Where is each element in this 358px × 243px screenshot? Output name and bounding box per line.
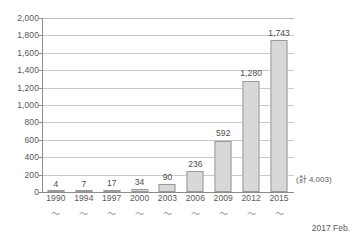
bar-value-label: 34 <box>135 178 145 187</box>
y-axis-tick-label: 600 <box>0 136 39 145</box>
x-axis-tick-label: 2012 <box>237 194 265 203</box>
bar[interactable] <box>271 40 288 192</box>
bar[interactable] <box>131 189 148 192</box>
bar-chart-figure: 02004006008001,0001,2001,4001,6001,8002,… <box>0 0 358 243</box>
source-date-note: 2017 Feb. <box>312 224 350 233</box>
x-axis-range-tilde: 〜 <box>154 210 182 219</box>
x-axis-category: 2000〜 <box>126 194 154 219</box>
x-axis-category: 1990〜 <box>42 194 70 219</box>
x-axis-range-tilde: 〜 <box>237 210 265 219</box>
bar[interactable] <box>75 190 92 192</box>
y-axis-tick-label: 1,000 <box>0 101 39 110</box>
bar[interactable] <box>47 190 64 192</box>
y-axis-tick-label: 400 <box>0 153 39 162</box>
bar-value-label: 1,743 <box>268 29 290 38</box>
y-axis-tick-label: 0 <box>0 188 39 197</box>
bar-slot: 1,743 <box>265 18 293 192</box>
x-axis-category: 2009〜 <box>209 194 237 219</box>
x-axis-category: 2006〜 <box>181 194 209 219</box>
x-axis-tick-label: 2006 <box>181 194 209 203</box>
bar[interactable] <box>215 141 232 193</box>
bar-slot: 1,280 <box>237 18 265 192</box>
bar-value-label: 90 <box>163 173 173 182</box>
x-axis-range-tilde: 〜 <box>70 210 98 219</box>
total-annotation: (計 4,003) <box>296 176 332 184</box>
bar-slot: 34 <box>126 18 154 192</box>
bar-value-label: 7 <box>81 180 86 189</box>
x-axis-tick-label: 1990 <box>42 194 70 203</box>
bar-slot: 592 <box>209 18 237 192</box>
x-axis: 1990〜1994〜1997〜2000〜2003〜2006〜2009〜2012〜… <box>42 194 293 226</box>
x-axis-range-tilde: 〜 <box>265 210 293 219</box>
bar-value-label: 17 <box>107 179 117 188</box>
bar-value-label: 4 <box>54 180 59 189</box>
bar[interactable] <box>187 171 204 192</box>
x-axis-tick-label: 1994 <box>70 194 98 203</box>
bar-value-label: 592 <box>216 129 230 138</box>
x-axis-category: 1994〜 <box>70 194 98 219</box>
x-axis-tick-label: 2000 <box>126 194 154 203</box>
bar[interactable] <box>159 184 176 192</box>
y-axis-tick-label: 1,400 <box>0 66 39 75</box>
bar-slot: 236 <box>181 18 209 192</box>
x-axis-tick-label: 2003 <box>154 194 182 203</box>
bar-slot: 90 <box>154 18 182 192</box>
x-axis-tick-label: 1997 <box>98 194 126 203</box>
x-axis-category: 2015〜 <box>265 194 293 219</box>
y-axis-tick-label: 200 <box>0 171 39 180</box>
bars-layer: 471734902365921,2801,743 <box>42 18 293 192</box>
x-axis-range-tilde: 〜 <box>42 210 70 219</box>
y-axis-tick-label: 800 <box>0 118 39 127</box>
x-axis-category: 1997〜 <box>98 194 126 219</box>
y-axis-tick-label: 1,800 <box>0 31 39 40</box>
bar[interactable] <box>103 190 120 192</box>
x-axis-range-tilde: 〜 <box>209 210 237 219</box>
x-axis-tick-label: 2009 <box>209 194 237 203</box>
bar[interactable] <box>243 81 260 192</box>
y-axis-tick-label: 1,600 <box>0 49 39 58</box>
bar-slot: 17 <box>98 18 126 192</box>
x-axis-category: 2003〜 <box>154 194 182 219</box>
x-axis-tick-label: 2015 <box>265 194 293 203</box>
bar-value-label: 236 <box>188 160 202 169</box>
bar-value-label: 1,280 <box>240 69 262 78</box>
x-axis-category: 2012〜 <box>237 194 265 219</box>
y-axis-tick-label: 2,000 <box>0 14 39 23</box>
bar-slot: 7 <box>70 18 98 192</box>
y-axis-tick-label: 1,200 <box>0 84 39 93</box>
x-axis-range-tilde: 〜 <box>181 210 209 219</box>
x-axis-range-tilde: 〜 <box>126 210 154 219</box>
x-axis-range-tilde: 〜 <box>98 210 126 219</box>
bar-slot: 4 <box>42 18 70 192</box>
